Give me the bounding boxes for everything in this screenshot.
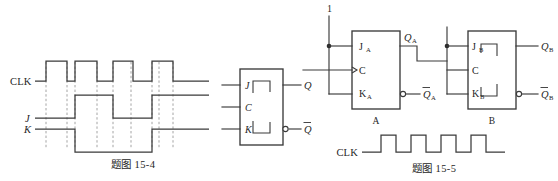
inversion-bubble-a [400,91,405,96]
clk-label-left: CLK [10,76,32,87]
clock-triangle-a [352,67,357,73]
pin-j-left: J [245,80,250,91]
flipflop-symbol-left: J C K Q Q [222,69,312,145]
output-q-left: Q [304,80,312,91]
output-qbar-a-sub: A [431,94,436,101]
clk-waveform-left [35,61,209,81]
output-qbar-b: Q [541,89,549,100]
wire-qa-to-cb [400,46,447,61]
pin-c-a: C [359,65,366,76]
output-qbar-b-sub: B [549,94,554,101]
inversion-bubble-left [283,126,288,131]
figure-root: CLK J K 题图 15-4 J C K Q Q [0,0,558,181]
pin-j-a: J [359,41,363,52]
output-qbar-a: Q [423,89,431,100]
j-waveform [35,95,209,118]
pin-c-left: C [245,102,252,113]
k-waveform [35,129,209,152]
clk-waveform-right [362,135,505,152]
internal-step-bottom-left [253,121,270,133]
output-qbar-left: Q [304,124,312,135]
caption-left: 题图 15-4 [111,159,156,170]
output-qb: Q [541,41,549,52]
pin-c-b: C [472,65,479,76]
pin-j-b-sub: B [479,46,484,53]
output-qb-sub: B [549,46,554,53]
technical-diagram-svg: CLK J K 题图 15-4 J C K Q Q [0,0,558,181]
k-label: K [23,124,32,135]
pin-k-a: K [359,88,367,99]
alignment-dashed-lines [46,62,173,148]
output-qa: Q [404,32,412,43]
flipflop-b-name: B [489,116,495,126]
input-one-label: 1 [327,3,332,14]
inversion-bubble-b [516,91,521,96]
pin-k-b: K [472,88,480,99]
pin-j-a-sub: A [366,46,371,53]
pin-k-a-sub: A [367,93,372,100]
pin-j-b: J [472,41,476,52]
pin-k-b-sub: B [480,93,485,100]
caption-right: 题图 15-5 [412,163,457,174]
output-qa-sub: A [412,37,417,44]
flipflop-a-name: A [373,116,380,126]
clk-label-right: CLK [336,147,358,158]
right-figure-group: 1 J A C K A Q A Q A [303,3,554,174]
j-label: J [25,113,31,124]
left-figure-group: CLK J K 题图 15-4 [10,61,209,170]
internal-step-top-left [253,81,270,93]
pin-k-left: K [244,124,253,135]
